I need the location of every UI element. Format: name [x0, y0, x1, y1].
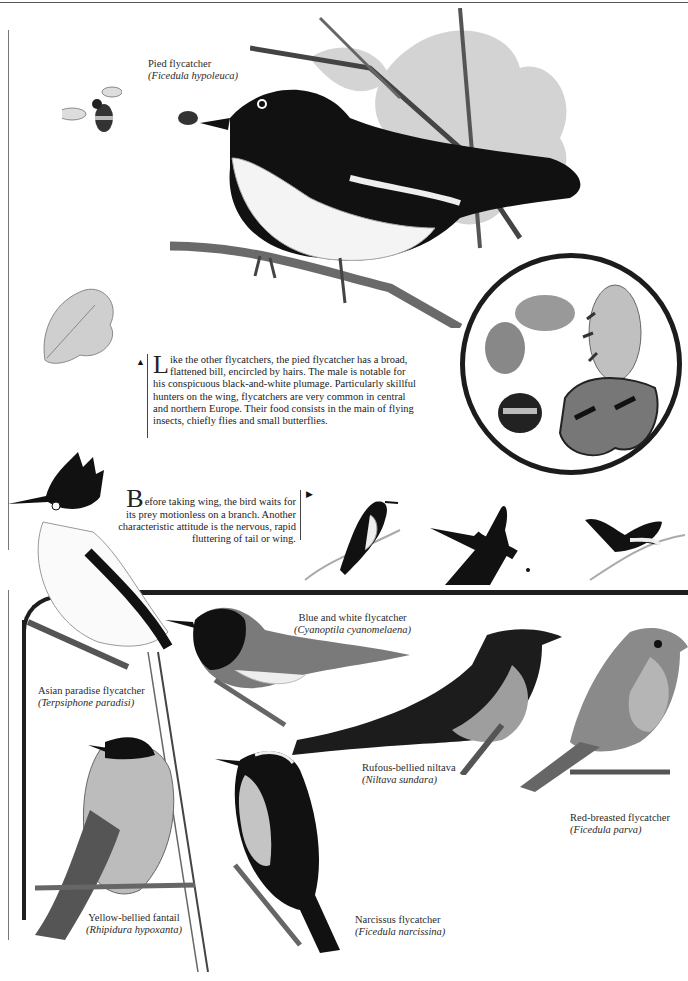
- pied-flycatcher-description: Like the other flycatchers, the pied fly…: [153, 354, 418, 427]
- fly-icon: [485, 322, 525, 374]
- narcissus-flycatcher-illustration: [215, 745, 355, 955]
- up-arrow-marker-icon: ▲: [136, 357, 145, 367]
- behavior-sequence-illustration: [300, 490, 688, 590]
- yellow-bellied-fantail-illustration: [30, 730, 200, 940]
- bee-icon: [62, 82, 122, 137]
- text-block-rule: [147, 354, 148, 438]
- caption-red-breasted-flycatcher: Red-breasted flycatcher (Ficedula parva): [570, 812, 670, 836]
- flycatcher-in-flight-figure: [430, 506, 530, 585]
- caption-yellow-bellied-fantail: Yellow-bellied fantail (Rhipidura hypoxa…: [86, 912, 182, 936]
- insect-inset: [460, 253, 682, 475]
- caption-narcissus-flycatcher: Narcissus flycatcher (Ficedula narcissin…: [355, 914, 445, 938]
- flycatcher-fluttering-figure: [585, 519, 685, 580]
- red-breasted-flycatcher-illustration: [520, 622, 688, 792]
- beetle-icon: [515, 295, 575, 331]
- caption-pied-flycatcher: Pied flycatcher (Ficedula hypoleuca): [148, 58, 238, 82]
- caption-asian-paradise-flycatcher: Asian paradise flycatcher (Terpsiphone p…: [38, 685, 145, 709]
- insect-illustrations: [465, 258, 677, 470]
- caption-rufous-bellied-niltava: Rufous-bellied niltava (Niltava sundara): [362, 762, 456, 786]
- moth-icon: [589, 285, 641, 381]
- oak-leaf-icon: [35, 280, 125, 370]
- top-rule: [0, 2, 688, 3]
- dropcap: L: [153, 355, 169, 375]
- flycatcher-perched-figure: [305, 502, 400, 580]
